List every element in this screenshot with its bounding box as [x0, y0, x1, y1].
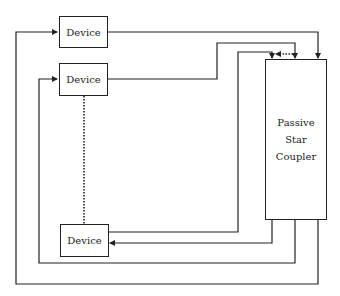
passive-star-coupler: Passive Star Coupler — [265, 59, 327, 220]
coupler-label-line1: Passive — [277, 114, 314, 131]
device-box-3: Device — [60, 224, 109, 257]
device-label: Device — [66, 74, 100, 85]
device-label: Device — [66, 27, 100, 38]
device-label: Device — [67, 235, 101, 246]
device-box-2: Device — [59, 63, 108, 96]
line-coupler-to-device3 — [110, 219, 272, 243]
coupler-label-line3: Coupler — [276, 148, 316, 165]
coupler-label-line2: Star — [285, 131, 307, 148]
device-box-1: Device — [59, 16, 108, 48]
